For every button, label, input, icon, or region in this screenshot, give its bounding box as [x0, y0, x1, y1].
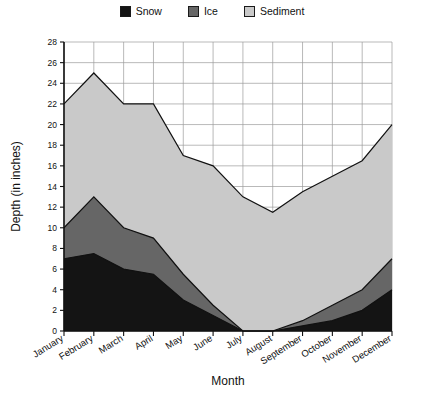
- x-tick-labels: JanuaryFebruaryMarchAprilMayJuneJulyAugu…: [31, 332, 394, 366]
- x-tick-label: March: [96, 332, 124, 355]
- y-tick-label: 20: [48, 120, 58, 130]
- y-tick-label: 12: [48, 202, 58, 212]
- x-tick-label: February: [57, 332, 95, 362]
- x-tick-label: May: [163, 332, 184, 351]
- x-axis-title: Month: [211, 374, 244, 388]
- y-tick-labels: 0246810121416182022242628: [48, 37, 58, 336]
- y-tick-label: 14: [48, 182, 58, 192]
- x-tick-label: April: [133, 332, 155, 351]
- y-axis-title: Depth (in inches): [9, 141, 23, 232]
- y-tick-label: 18: [48, 140, 58, 150]
- y-tick-label: 2: [52, 305, 57, 315]
- chart-container: Snow Ice Sediment 0246810121416182022242…: [0, 0, 424, 398]
- y-tick-label: 10: [48, 223, 58, 233]
- y-tick-label: 6: [52, 264, 57, 274]
- y-tick-label: 22: [48, 99, 58, 109]
- area-chart-svg: 0246810121416182022242628 JanuaryFebruar…: [0, 0, 424, 398]
- y-tick-label: 26: [48, 58, 58, 68]
- y-tick-label: 24: [48, 78, 58, 88]
- y-tick-label: 16: [48, 161, 58, 171]
- y-tick-label: 4: [52, 285, 57, 295]
- x-tick-label: June: [191, 332, 214, 352]
- x-tick-label: July: [224, 332, 244, 350]
- y-tick-label: 28: [48, 37, 58, 47]
- y-tick-label: 8: [52, 243, 57, 253]
- plot-area: 0246810121416182022242628 JanuaryFebruar…: [0, 0, 424, 398]
